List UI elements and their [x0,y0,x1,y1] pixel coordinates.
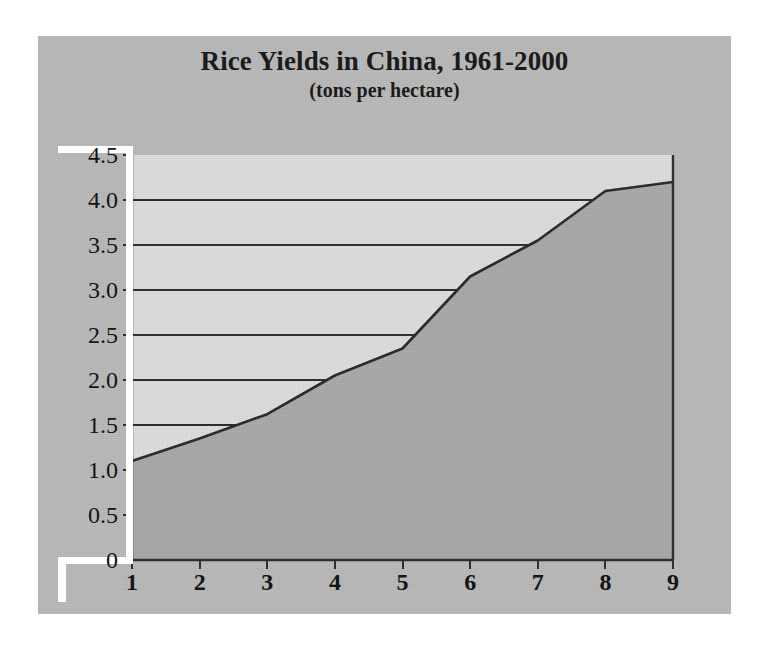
x-axis-tick-mark [604,560,606,569]
title-block: Rice Yields in China, 1961-2000 (tons pe… [38,46,731,103]
y-axis-tick-label: 0 [106,548,118,572]
ytick-gutter-band-right [126,146,133,564]
chart-subtitle: (tons per hectare) [38,78,731,103]
y-axis-tick-label: 1.5 [88,413,118,437]
x-axis-tick-label: 5 [397,570,409,594]
y-axis-tick-label: 3.5 [88,233,118,257]
x-axis-tick-label: 2 [194,570,206,594]
y-axis-tick-labels: 4.54.03.53.02.52.01.51.00.50 [52,148,124,560]
x-axis-tick-mark [537,560,539,569]
y-axis-tick-label: 4.5 [88,143,118,167]
x-axis-tick-label: 1 [126,570,138,594]
x-axis-tick-label: 6 [464,570,476,594]
y-axis-tick-label: 2.5 [88,323,118,347]
x-axis-tick-mark [469,560,471,569]
y-axis-tick-label: 2.0 [88,368,118,392]
x-axis-tick-mark [334,560,336,569]
x-axis-tick-mark [199,560,201,569]
x-axis-tick-label: 8 [599,570,611,594]
x-axis-tick-labels: 123456789 [132,570,673,604]
y-axis-tick-label: 4.0 [88,188,118,212]
chart-title: Rice Yields in China, 1961-2000 [38,46,731,76]
x-axis-tick-label: 4 [329,570,341,594]
area-fill [132,182,673,560]
x-axis-tick-mark [672,560,674,569]
x-axis-tick-label: 7 [532,570,544,594]
x-axis-tick-label: 9 [667,570,679,594]
y-axis-tick-label: 0.5 [88,503,118,527]
y-axis-tick-label: 1.0 [88,458,118,482]
x-axis-tick-mark [266,560,268,569]
y-axis-tick-label: 3.0 [88,278,118,302]
xtick-gutter-band [58,564,66,602]
chart-plate: Rice Yields in China, 1961-2000 (tons pe… [38,36,731,614]
plot-area [132,155,673,560]
area-chart-svg [132,155,673,560]
x-axis-tick-mark [402,560,404,569]
chart-figure: Rice Yields in China, 1961-2000 (tons pe… [0,0,765,653]
x-axis-tick-label: 3 [261,570,273,594]
